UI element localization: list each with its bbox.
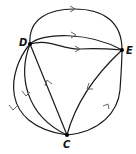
vertex-e xyxy=(120,48,124,52)
vertex-label-d: D xyxy=(19,38,27,48)
arrow-c-e-right-arc-icon xyxy=(103,104,109,109)
arrow-d-c-left-outer-arc-icon xyxy=(9,105,17,110)
directed-graph-diagram: D E C xyxy=(0,0,136,154)
graph-svg xyxy=(0,0,136,154)
vertex-label-e: E xyxy=(126,46,133,56)
vertex-label-c: C xyxy=(63,140,70,150)
edge-c-d-straight xyxy=(30,44,67,135)
vertex-c xyxy=(65,133,69,137)
vertex-d xyxy=(28,42,32,46)
edge-d-c-left-outer-arc xyxy=(14,44,67,135)
edge-e-c-straight xyxy=(67,50,122,135)
edge-c-e-right-arc xyxy=(67,50,122,135)
arrow-d-e-upper-curve-icon xyxy=(71,32,76,38)
arrow-c-d-straight-icon xyxy=(45,80,52,86)
